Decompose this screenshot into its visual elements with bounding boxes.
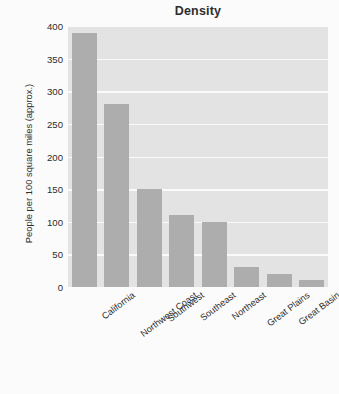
x-tick-label: California [100, 290, 137, 321]
y-tick-label: 300 [23, 86, 63, 97]
x-axis-ticks: CaliforniaNorthwest CoastSouthwestSouthe… [68, 287, 328, 392]
chart-figure: Density People per 100 square miles (app… [0, 0, 339, 394]
y-tick-label: 150 [23, 184, 63, 195]
y-tick-label: 400 [23, 21, 63, 32]
y-axis-ticks: 050100150200250300350400 [0, 26, 339, 287]
y-tick-label: 350 [23, 53, 63, 64]
y-tick-label: 50 [23, 249, 63, 260]
y-tick-label: 200 [23, 151, 63, 162]
y-tick-label: 250 [23, 118, 63, 129]
y-tick-label: 100 [23, 216, 63, 227]
chart-title: Density [68, 4, 328, 18]
y-tick-label: 0 [23, 282, 63, 293]
